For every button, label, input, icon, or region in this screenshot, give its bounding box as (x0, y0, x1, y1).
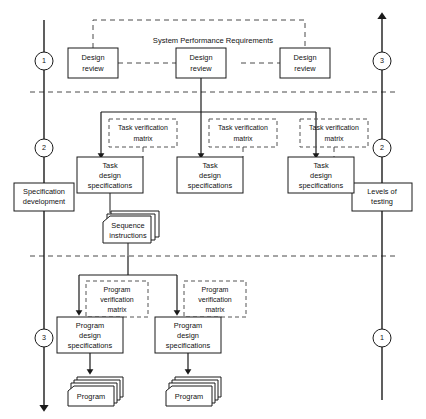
levels-of-testing-label-line2: testing (371, 197, 393, 206)
design-review-left-label-line1: Design (81, 53, 104, 62)
task-verification-matrix-3-label-line1: Task verification (309, 124, 359, 131)
testing-marker-2-label: 2 (380, 143, 384, 152)
task-design-specifications-1-label-line2: design (99, 171, 121, 180)
task-verification-matrix-2-label-line2: matrix (233, 135, 253, 142)
design-review-right-label-line2: review (294, 64, 316, 73)
specification-development-label-line1: Specification (23, 187, 65, 196)
testing-marker-1-label: 1 (380, 333, 384, 342)
task-design-specifications-2-label-line1: Task (202, 161, 217, 170)
program-design-specifications-1-label-line3: specifications (68, 341, 113, 350)
program-verification-matrix-2-label-line1: Program (202, 286, 229, 294)
design-review-right-label-line1: Design (293, 53, 316, 62)
program-verification-matrix-1-label-line3: matrix (107, 306, 127, 313)
sequence-instructions-label-line1: Sequence (111, 221, 144, 230)
specification-development-label-line2: development (23, 197, 65, 206)
program-verification-matrix-1-label-line1: Program (104, 286, 131, 294)
program-design-specifications-1-label-line2: design (79, 331, 101, 340)
program-design-specifications-2-label-line2: design (177, 331, 199, 340)
program-verification-matrix-2-label-line2: verification (198, 296, 232, 303)
sequence-instructions-label-line2: instructions (109, 231, 147, 240)
diagram-title: System Performance Requirements (153, 36, 273, 45)
program-design-specifications-2-label-line1: Program (174, 321, 202, 330)
task-verification-matrix-3-label-line2: matrix (324, 135, 344, 142)
task-design-specifications-2-label-line3: specifications (188, 181, 233, 190)
diagram-canvas: 1 2 3 Specification development 3 2 1 Le… (0, 0, 426, 419)
design-review-left-label-line2: review (82, 64, 104, 73)
testing-marker-3-label: 3 (380, 56, 384, 65)
program-design-specifications-1-label-line1: Program (76, 321, 104, 330)
task-verification-matrix-1-label-line1: Task verification (118, 124, 168, 131)
levels-of-testing-label-line1: Levels of (367, 187, 398, 196)
task-design-specifications-3-label-line1: Task (313, 161, 328, 170)
design-review-center-label-line2: review (190, 64, 212, 73)
program-design-specifications-2-label-line3: specifications (166, 341, 211, 350)
development-marker-2-label: 2 (42, 143, 46, 152)
system-development-v-diagram: 1 2 3 Specification development 3 2 1 Le… (0, 0, 426, 419)
task-design-specifications-1-label-line1: Task (102, 161, 117, 170)
program-stack-1-label: Program (77, 392, 105, 401)
program-verification-matrix-2-label-line3: matrix (205, 306, 225, 313)
task-design-specifications-1-label-line3: specifications (88, 181, 133, 190)
task-verification-matrix-1-label-line2: matrix (133, 135, 153, 142)
development-marker-1-label: 1 (42, 56, 46, 65)
task-design-specifications-2-label-line2: design (199, 171, 221, 180)
task-design-specifications-3-label-line2: design (310, 171, 332, 180)
task-verification-matrix-2-label-line1: Task verification (218, 124, 268, 131)
program-stack-2-label: Program (175, 392, 203, 401)
task-design-specifications-3-label-line3: specifications (299, 181, 344, 190)
development-marker-3-label: 3 (42, 333, 46, 342)
program-verification-matrix-1-label-line2: verification (100, 296, 134, 303)
design-review-center-label-line1: Design (189, 53, 212, 62)
